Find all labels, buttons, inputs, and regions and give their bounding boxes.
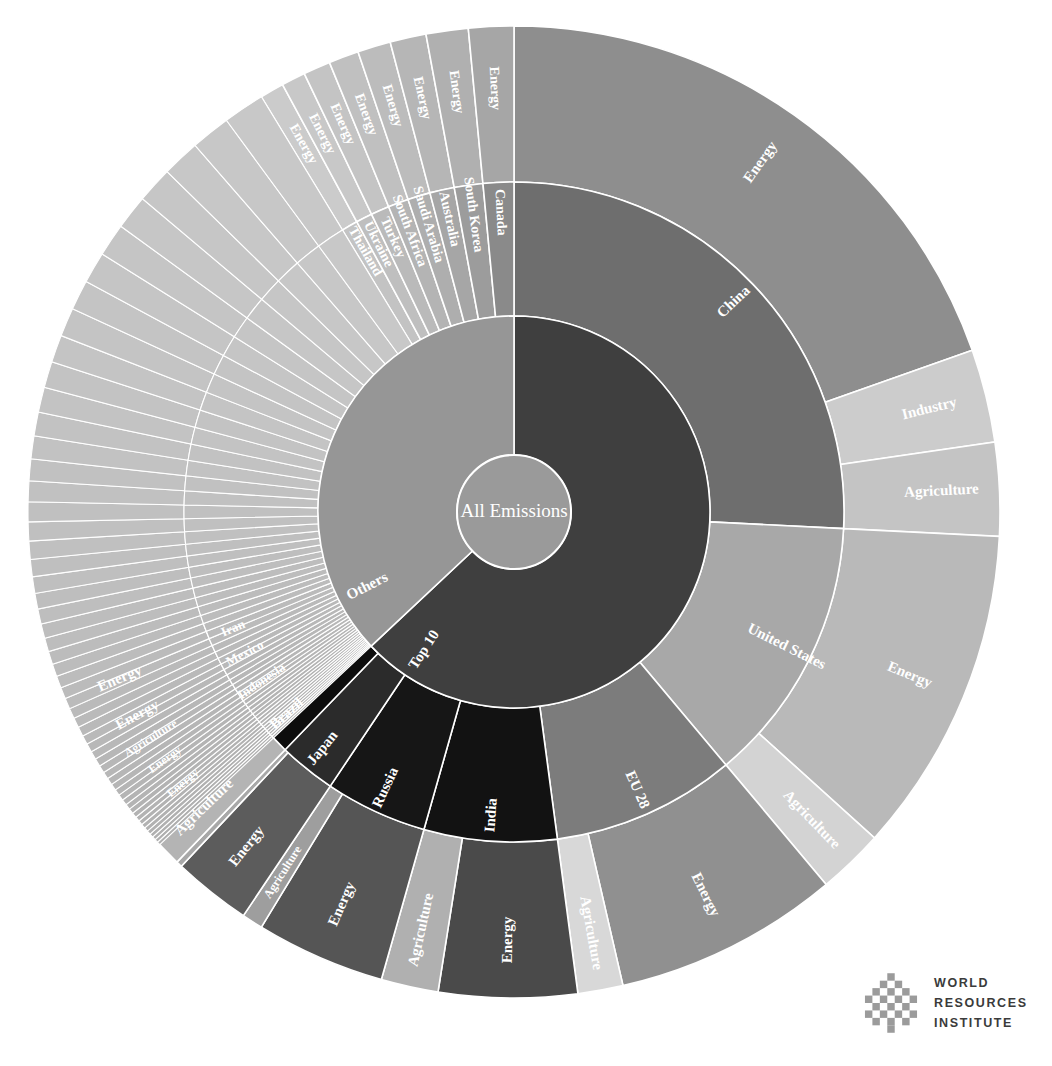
- sunburst-svg: All Emissions Top 10OthersChinaEnergyInd…: [0, 0, 1052, 1066]
- center-disc: All Emissions: [457, 455, 571, 569]
- label-sector-india-energy: Energy: [499, 916, 516, 963]
- logo-line-1: WORLD: [934, 973, 1028, 993]
- logo-text: WORLD RESOURCES INSTITUTE: [934, 973, 1028, 1034]
- label-sector-canada-energy: Energy: [487, 66, 504, 110]
- wri-logo: WORLD RESOURCES INSTITUTE: [860, 966, 1040, 1040]
- woven-knot-mark: [860, 972, 922, 1034]
- label-country-india: India: [481, 797, 499, 833]
- center-label: All Emissions: [460, 500, 567, 521]
- logo-line-3: INSTITUTE: [934, 1013, 1028, 1033]
- logo-line-2: RESOURCES: [934, 993, 1028, 1013]
- label-country-canada: Canada: [493, 189, 510, 236]
- sunburst-chart: All Emissions Top 10OthersChinaEnergyInd…: [0, 0, 1052, 1066]
